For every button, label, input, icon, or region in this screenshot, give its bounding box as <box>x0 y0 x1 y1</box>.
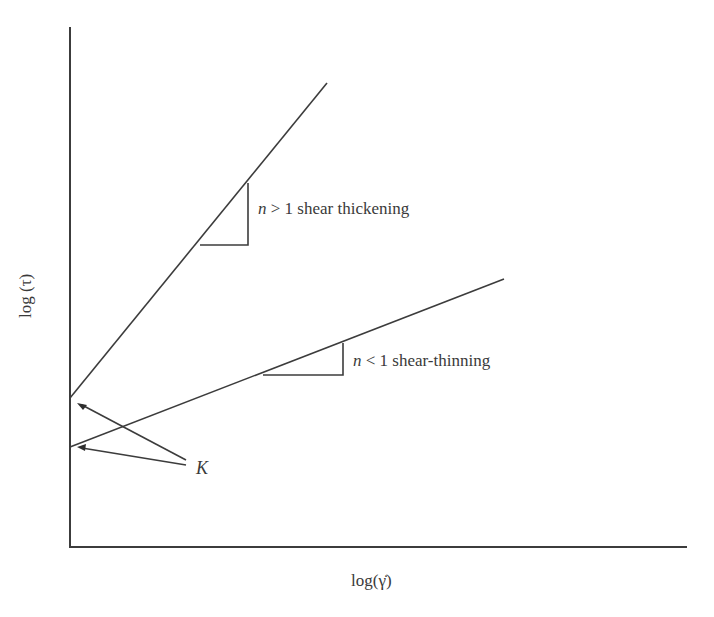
slope-var-n: n <box>353 351 362 370</box>
k-leader-lower <box>82 448 186 465</box>
slope-description: shear thickening <box>297 199 409 218</box>
slope-triangle-thickening <box>200 183 248 245</box>
slope-description: shear-thinning <box>392 351 490 370</box>
shear-thickening-line <box>70 83 327 398</box>
k-leader-upper <box>82 405 186 460</box>
y-axis-label: log (τ) <box>16 274 36 318</box>
x-axis-label: log(γ̇) <box>351 572 392 589</box>
diagram-canvas <box>0 0 714 617</box>
k-arrowhead-lower <box>77 444 86 451</box>
k-intercept-label: K <box>196 459 208 477</box>
slope-triangle-thinning <box>263 343 343 375</box>
slope-var-n: n <box>258 199 267 218</box>
thinning-slope-label: n < 1 shear-thinning <box>353 352 490 369</box>
slope-relation: > 1 <box>267 199 298 218</box>
k-arrowhead-upper <box>77 403 87 410</box>
thickening-slope-label: n > 1 shear thickening <box>258 200 409 217</box>
slope-relation: < 1 <box>362 351 393 370</box>
